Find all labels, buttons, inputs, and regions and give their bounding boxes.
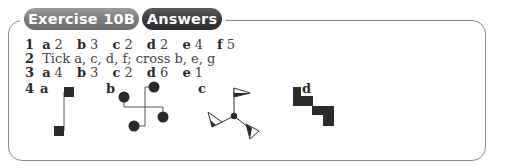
staircase-blocks-figure [0,0,509,168]
